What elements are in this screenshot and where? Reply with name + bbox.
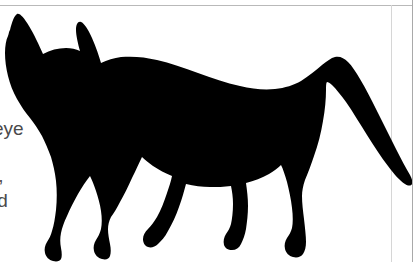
clipped-text-column: eye t, ld: [0, 118, 63, 213]
text-fragment-line-1: eye: [0, 118, 63, 141]
page-outer-margin: [413, 0, 418, 262]
document-page: eye t, ld: [0, 0, 418, 262]
text-fragment-line-3: ld: [0, 190, 63, 213]
page-border-top: [0, 5, 413, 6]
text-fragment-line-2: t,: [0, 165, 63, 188]
page-border-right-inner: [391, 5, 392, 262]
